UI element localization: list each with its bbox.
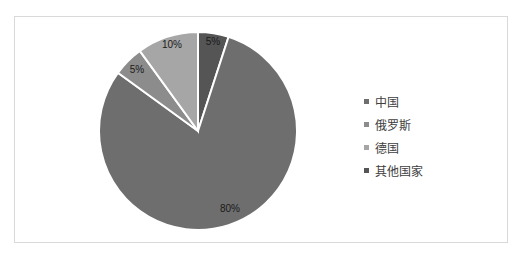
legend-item-china[interactable]: 中国 xyxy=(364,90,423,113)
legend: 中国 俄罗斯 德国 其他国家 xyxy=(364,90,423,182)
legend-swatch-icon xyxy=(364,122,369,127)
label-china: 80% xyxy=(220,203,240,214)
label-russia: 5% xyxy=(130,64,145,75)
legend-item-russia[interactable]: 俄罗斯 xyxy=(364,113,423,136)
legend-item-germany[interactable]: 德国 xyxy=(364,136,423,159)
legend-label: 德国 xyxy=(375,139,399,156)
legend-swatch-icon xyxy=(364,168,369,173)
pie-chart: 5% 10% 5% 80% xyxy=(0,0,530,257)
label-others: 5% xyxy=(206,36,221,47)
legend-swatch-icon xyxy=(364,99,369,104)
legend-item-others[interactable]: 其他国家 xyxy=(364,159,423,182)
legend-label: 其他国家 xyxy=(375,162,423,179)
legend-label: 中国 xyxy=(375,93,399,110)
legend-swatch-icon xyxy=(364,145,369,150)
label-germany: 10% xyxy=(162,39,182,50)
legend-label: 俄罗斯 xyxy=(375,116,411,133)
